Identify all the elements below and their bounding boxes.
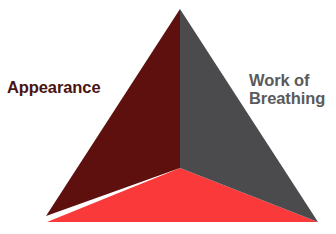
- appearance-label: Appearance: [7, 78, 100, 96]
- pyramid-graphic: [0, 0, 336, 234]
- pediatric-assessment-triangle-diagram: Appearance Work of Breathing: [0, 0, 336, 234]
- work-of-breathing-label: Work of Breathing: [249, 71, 325, 108]
